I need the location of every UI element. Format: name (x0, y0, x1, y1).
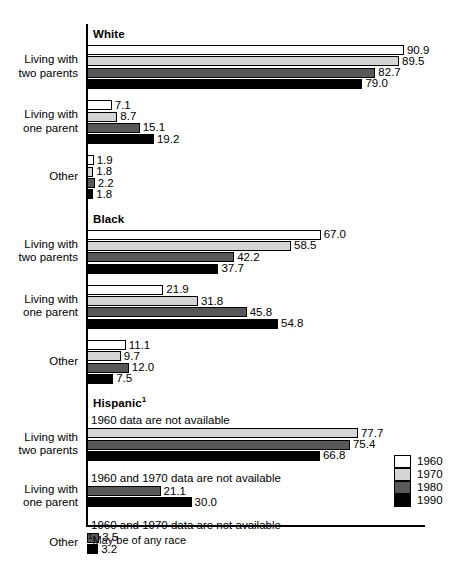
bar-1990 (87, 264, 218, 274)
bar-1990 (87, 451, 320, 461)
bar-1980 (87, 307, 247, 317)
category-label-line1: Living with (0, 293, 78, 307)
bar-value-label: 1.8 (93, 166, 112, 176)
bar-value-label: 21.1 (161, 486, 186, 496)
bar-value-label: 45.8 (247, 307, 272, 317)
bar-1980 (87, 123, 140, 133)
bar-value-label: 66.8 (320, 450, 345, 460)
category-label-line1: Living with (0, 483, 78, 497)
bar-value-label: 30.0 (192, 497, 217, 507)
category-label: Living withone parent (0, 293, 78, 320)
group-title-white: White (93, 28, 125, 40)
bar-value-label: 7.5 (113, 373, 132, 383)
category-label-line1: Living with (0, 238, 78, 252)
bar-value-label: 54.8 (278, 318, 303, 328)
category-label: Living withtwo parents (0, 431, 78, 458)
category-label-line1: Living with (0, 108, 78, 122)
category-label-line1: Other (0, 536, 78, 550)
category-label-line2: one parent (0, 122, 78, 136)
bar-value-label: 90.9 (404, 45, 429, 55)
bar-value-label: 9.7 (121, 351, 140, 361)
category-label: Other (0, 536, 78, 550)
legend-label-1990: 1990 (417, 493, 443, 507)
group-title-hispanic: Hispanic1 (93, 397, 146, 409)
bar-value-label: 15.1 (140, 122, 165, 132)
bar-value-label: 12.0 (129, 362, 154, 372)
bar-1980 (87, 363, 129, 373)
category-label-line1: Living with (0, 431, 78, 445)
bar-value-label: 1.9 (94, 155, 113, 165)
bar-value-label: 11.1 (126, 340, 151, 350)
bar-value-label: 67.0 (321, 229, 346, 239)
group-title-footnote-marker: 1 (142, 395, 147, 404)
category-label: Other (0, 170, 78, 184)
bar-1980 (87, 68, 375, 78)
legend-swatch-1960-icon (394, 455, 411, 468)
bar-1960 (87, 340, 126, 350)
legend-swatch-1990-icon (394, 494, 411, 507)
bar-1970 (87, 351, 121, 361)
legend-swatch-1970-icon (394, 468, 411, 481)
category-label: Living withone parent (0, 108, 78, 135)
bar-value-label: 77.7 (358, 428, 383, 438)
bar-value-label: 37.7 (218, 263, 243, 273)
bar-1960 (87, 45, 404, 55)
bar-1970 (87, 56, 399, 66)
bar-1960 (87, 230, 321, 240)
bar-value-label: 21.9 (163, 284, 188, 294)
bar-value-label: 1.8 (93, 189, 112, 199)
bar-1990 (87, 134, 154, 144)
legend-label-1980: 1980 (417, 480, 443, 494)
bar-value-label: 79.0 (362, 78, 387, 88)
bar-1970 (87, 296, 198, 306)
category-label-line2: two parents (0, 444, 78, 458)
legend-label-1960: 1960 (417, 454, 443, 468)
bar-value-label: 82.7 (375, 67, 400, 77)
bar-value-label: 89.5 (399, 56, 424, 66)
bar-value-label: 42.2 (234, 252, 259, 262)
bar-1970 (87, 428, 358, 438)
bar-1980 (87, 486, 161, 496)
data-not-available-note: 1960 and 1970 data are not available (91, 472, 281, 484)
category-label-line1: Other (0, 170, 78, 184)
group-title-black: Black (93, 213, 124, 225)
footnote-text: May be of any race (92, 534, 186, 546)
bar-1990 (87, 79, 362, 89)
bar-1970 (87, 112, 117, 122)
bar-value-label: 2.2 (95, 178, 114, 188)
data-not-available-note: 1960 data are not available (91, 414, 230, 426)
bar-1980 (87, 440, 350, 450)
bar-value-label: 58.5 (291, 240, 316, 250)
bar-1970 (87, 241, 291, 251)
bar-1990 (87, 374, 113, 384)
category-label-line1: Living with (0, 53, 78, 67)
footnote: 1May be of any race (88, 534, 186, 546)
bar-1990 (87, 319, 278, 329)
legend-swatch-1980-icon (394, 481, 411, 494)
bar-value-label: 31.8 (198, 296, 223, 306)
bar-1960 (87, 285, 163, 295)
data-not-available-note: 1960 and 1970 data are not available (91, 519, 281, 531)
bar-1980 (87, 178, 95, 188)
category-label: Living withone parent (0, 483, 78, 510)
category-label-line1: Other (0, 355, 78, 369)
chart-container: White90.989.582.779.0Living withtwo pare… (0, 0, 459, 563)
category-label: Other (0, 355, 78, 369)
category-label: Living withtwo parents (0, 238, 78, 265)
bar-1960 (87, 100, 112, 110)
bar-value-label: 8.7 (117, 111, 136, 121)
bar-value-label: 75.4 (350, 439, 375, 449)
category-label-line2: two parents (0, 251, 78, 265)
legend-label-1970: 1970 (417, 467, 443, 481)
bar-1990 (87, 497, 192, 507)
bar-value-label: 7.1 (112, 100, 131, 110)
category-label-line2: one parent (0, 306, 78, 320)
category-label: Living withtwo parents (0, 53, 78, 80)
bar-1980 (87, 252, 234, 262)
bar-value-label: 19.2 (154, 134, 179, 144)
category-label-line2: two parents (0, 67, 78, 81)
category-label-line2: one parent (0, 496, 78, 510)
bar-1960 (87, 155, 94, 165)
